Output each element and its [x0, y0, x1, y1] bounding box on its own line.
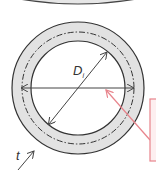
thickness-label: t	[16, 148, 21, 163]
thickness-arrow	[18, 151, 34, 170]
callout-box	[150, 99, 156, 161]
upper-shape-edge	[14, 0, 142, 4]
pipe-diagram: Di t	[0, 0, 156, 172]
